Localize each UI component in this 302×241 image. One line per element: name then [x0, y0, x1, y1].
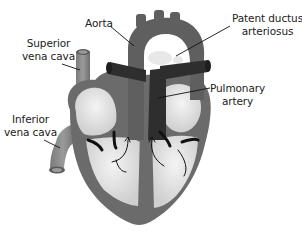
label-patent-ductus-arteriosus: Patent ductus arteriosus	[232, 12, 302, 38]
heart-diagram: Aorta Superior vena cava Inferior vena c…	[0, 0, 302, 241]
label-inferior-vena-cava: Inferior vena cava	[4, 113, 57, 139]
right-ventricle	[86, 137, 140, 206]
label-superior-vena-cava: Superior vena cava	[22, 37, 75, 63]
label-aorta: Aorta	[85, 17, 113, 30]
leader-aorta	[110, 26, 134, 46]
label-pulmonary-artery: Pulmonary artery	[210, 82, 265, 108]
